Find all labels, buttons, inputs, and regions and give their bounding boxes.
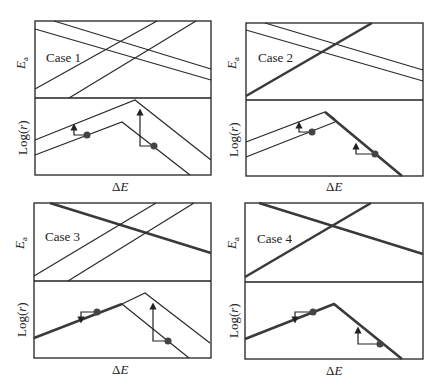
de-label-2: ΔE [326,179,342,194]
case-label: Case 4 [257,231,293,246]
panel-case-1: Case 1 [35,21,211,175]
figure: Case 1 Case 2 Case 3 [0,0,441,389]
panel-case-4: Case 4 [245,203,423,359]
case-label: Case 1 [46,50,81,65]
de-label-4: ΔE [326,363,342,378]
ea-label-3: Ea [12,237,29,250]
axis-labels: Ea Log(r) ΔE Ea Log(r) ΔE Ea Log(r) ΔE E… [12,57,342,378]
ea-label-2: Ea [224,57,241,70]
logr-label-2: Log(r) [226,122,241,157]
panel-case-3: Case 3 [34,203,211,358]
logr-label-1: Log(r) [15,120,30,155]
logr-label-4: Log(r) [226,303,241,338]
de-label-3: ΔE [112,362,128,377]
case-label: Case 3 [45,229,80,244]
ea-label-1: Ea [13,57,30,70]
case-label: Case 2 [258,50,293,65]
logr-label-3: Log(r) [14,302,29,337]
ea-label-4: Ea [224,237,241,250]
panel-case-2: Case 2 [246,23,423,176]
de-label-1: ΔE [112,179,128,194]
